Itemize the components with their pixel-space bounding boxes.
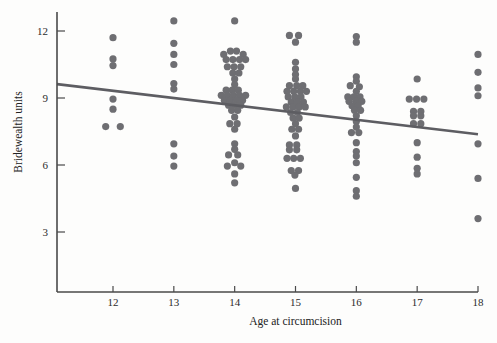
- data-point: [170, 61, 177, 68]
- y-axis-ticks: 36912: [37, 25, 65, 238]
- data-point: [353, 174, 360, 181]
- data-point: [231, 126, 238, 133]
- x-tick-label: 18: [473, 296, 485, 308]
- data-point: [355, 129, 362, 136]
- data-point: [231, 17, 238, 24]
- data-point: [170, 152, 177, 159]
- data-point: [117, 123, 124, 130]
- data-point: [292, 132, 299, 139]
- data-point: [292, 75, 299, 82]
- data-point: [231, 170, 238, 177]
- data-point: [414, 170, 421, 177]
- data-point: [288, 126, 295, 133]
- data-point: [235, 69, 242, 76]
- data-point: [406, 96, 413, 103]
- data-point: [292, 39, 299, 46]
- data-point: [295, 126, 302, 133]
- data-point: [303, 88, 310, 95]
- data-point: [286, 146, 293, 153]
- y-tick-label: 9: [43, 92, 49, 104]
- data-point: [233, 48, 240, 55]
- x-tick-label: 12: [108, 296, 119, 308]
- data-point: [414, 139, 421, 146]
- data-point: [414, 154, 421, 161]
- data-point: [474, 69, 481, 76]
- data-point: [290, 155, 297, 162]
- data-point: [170, 17, 177, 24]
- data-point: [234, 151, 241, 158]
- data-point: [297, 155, 304, 162]
- y-tick-label: 3: [43, 226, 49, 238]
- data-point: [353, 139, 360, 146]
- x-axis-title: Age at circumcision: [249, 315, 342, 328]
- data-point: [109, 55, 116, 62]
- x-axis-ticks: 12131415161718: [108, 286, 485, 308]
- data-point: [283, 155, 290, 162]
- data-point: [226, 120, 233, 127]
- data-point: [474, 140, 481, 147]
- y-axis-title: Bridewealth units: [12, 91, 24, 173]
- data-point: [223, 56, 230, 63]
- data-point: [353, 152, 360, 159]
- data-point: [420, 96, 427, 103]
- data-point: [474, 51, 481, 58]
- data-point: [474, 215, 481, 222]
- scatter-plot-svg: 12131415161718 36912 Age at circumcision…: [0, 0, 497, 343]
- data-point: [353, 39, 360, 46]
- data-point: [474, 84, 481, 91]
- data-point: [109, 34, 116, 41]
- data-point: [102, 123, 109, 130]
- data-point: [474, 175, 481, 182]
- data-point: [302, 103, 309, 110]
- data-point: [237, 63, 244, 70]
- data-point: [170, 140, 177, 147]
- x-tick-label: 15: [290, 296, 302, 308]
- data-point: [109, 106, 116, 113]
- data-point: [224, 163, 231, 170]
- y-tick-label: 12: [37, 25, 48, 37]
- data-point: [231, 159, 238, 166]
- x-tick-label: 14: [229, 296, 241, 308]
- data-point: [292, 59, 299, 66]
- data-point: [170, 51, 177, 58]
- data-point: [417, 112, 424, 119]
- data-point: [293, 146, 300, 153]
- data-point: [234, 107, 241, 114]
- data-point: [230, 63, 237, 70]
- data-point: [224, 63, 231, 70]
- x-tick-label: 17: [412, 296, 424, 308]
- data-point: [474, 92, 481, 99]
- data-point: [295, 32, 302, 39]
- data-point: [347, 82, 354, 89]
- data-point: [414, 75, 421, 82]
- data-point: [170, 85, 177, 92]
- data-point: [353, 193, 360, 200]
- data-point: [170, 163, 177, 170]
- data-point: [109, 96, 116, 103]
- data-point: [410, 112, 417, 119]
- data-point: [231, 179, 238, 186]
- data-point: [242, 56, 249, 63]
- data-point: [170, 40, 177, 47]
- x-tick-label: 13: [168, 296, 180, 308]
- data-point: [348, 129, 355, 136]
- data-point: [292, 185, 299, 192]
- data-point: [237, 163, 244, 170]
- data-point: [225, 151, 232, 158]
- chart-figure: 12131415161718 36912 Age at circumcision…: [0, 0, 497, 343]
- data-point: [291, 171, 298, 178]
- x-tick-label: 16: [351, 296, 363, 308]
- data-points-layer: [102, 17, 482, 222]
- data-point: [231, 113, 238, 120]
- data-point: [109, 62, 116, 69]
- data-point: [353, 159, 360, 166]
- y-tick-label: 6: [43, 159, 49, 171]
- data-point: [413, 96, 420, 103]
- data-point: [229, 56, 236, 63]
- data-point: [286, 32, 293, 39]
